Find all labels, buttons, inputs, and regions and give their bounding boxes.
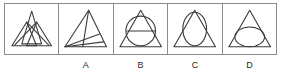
panel-option-b[interactable] (114, 4, 168, 54)
label-row: A B C D (4, 57, 277, 73)
option-b-drawing (114, 4, 167, 54)
question-figure-drawing (5, 4, 58, 54)
label-option-c: C (168, 57, 223, 73)
panel-option-a[interactable] (59, 4, 113, 54)
option-a-drawing (59, 4, 112, 54)
option-d-drawing (223, 4, 276, 54)
label-option-d: D (222, 57, 277, 73)
label-option-a: A (59, 57, 114, 73)
figure-sheet: A B C D (0, 0, 282, 75)
label-question-figure (4, 57, 59, 73)
panel-option-d[interactable] (223, 4, 276, 54)
panel-option-c[interactable] (168, 4, 222, 54)
panel-row (4, 3, 277, 55)
option-c-drawing (168, 4, 221, 54)
panel-question-figure[interactable] (5, 4, 59, 54)
label-option-b: B (113, 57, 168, 73)
